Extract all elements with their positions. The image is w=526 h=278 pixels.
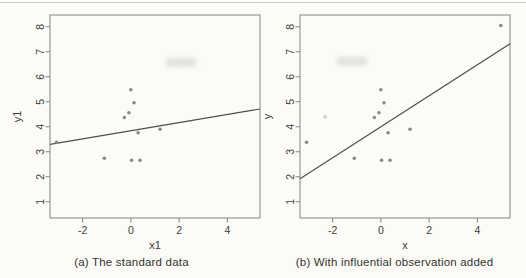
data-point xyxy=(129,88,133,92)
plot-box xyxy=(50,15,260,218)
data-point xyxy=(379,88,383,92)
data-point xyxy=(377,111,381,115)
data-point xyxy=(123,116,127,120)
y-tick-label: 7 xyxy=(34,49,46,55)
plot-box xyxy=(300,15,510,218)
data-point xyxy=(305,140,309,144)
caption-a: (a) The standard data xyxy=(0,256,263,269)
x-tick-label: 2 xyxy=(176,224,182,236)
panel-b: -202412345678xy (b) With influential obs… xyxy=(263,0,526,278)
x-axis-label: x1 xyxy=(149,239,161,251)
data-point xyxy=(130,158,134,162)
data-point xyxy=(388,158,392,162)
y-tick-label: 4 xyxy=(284,124,296,130)
y-tick-label: 8 xyxy=(34,24,46,30)
data-point xyxy=(136,131,140,135)
y-axis-label: y1 xyxy=(11,111,23,123)
regression-line xyxy=(50,109,260,144)
regression-line xyxy=(300,44,510,179)
y-tick-label: 7 xyxy=(284,49,296,55)
x-tick-label: 0 xyxy=(378,224,384,236)
data-point xyxy=(103,156,107,160)
y-axis-label: y xyxy=(263,113,273,119)
data-point xyxy=(353,156,357,160)
x-tick-label: 2 xyxy=(426,224,432,236)
x-tick-label: 4 xyxy=(474,224,480,236)
y-tick-label: 8 xyxy=(284,24,296,30)
y-tick-label: 5 xyxy=(34,99,46,105)
figure-influential-observation: -202412345678x1y1 (a) The standard data … xyxy=(0,0,526,278)
y-tick-label: 1 xyxy=(284,199,296,205)
y-tick-label: 5 xyxy=(284,99,296,105)
y-tick-label: 2 xyxy=(284,174,296,180)
x-tick-label: -2 xyxy=(328,224,337,236)
data-point xyxy=(127,111,131,115)
data-point xyxy=(373,116,377,120)
data-point xyxy=(132,101,136,105)
x-tick-label: -2 xyxy=(78,224,87,236)
y-tick-label: 6 xyxy=(284,74,296,80)
scatter-plot-a: -202412345678x1y1 xyxy=(0,0,263,256)
x-axis-label: x xyxy=(402,239,408,251)
data-point xyxy=(408,127,412,131)
data-point xyxy=(158,127,162,131)
data-point xyxy=(55,140,59,144)
data-point xyxy=(386,131,390,135)
x-tick-label: 4 xyxy=(224,224,230,236)
data-point xyxy=(382,101,386,105)
data-point xyxy=(499,24,503,28)
caption-b: (b) With influential observation added xyxy=(263,256,526,269)
scatter-plot-b: -202412345678xy xyxy=(263,0,526,256)
x-tick-label: 0 xyxy=(128,224,134,236)
data-point-faint xyxy=(323,115,327,119)
data-point xyxy=(138,158,142,162)
y-tick-label: 3 xyxy=(34,149,46,155)
data-point xyxy=(380,158,384,162)
y-tick-label: 1 xyxy=(34,199,46,205)
y-tick-label: 2 xyxy=(34,174,46,180)
y-tick-label: 6 xyxy=(34,74,46,80)
panel-row: -202412345678x1y1 (a) The standard data … xyxy=(0,0,526,278)
panel-a: -202412345678x1y1 (a) The standard data xyxy=(0,0,263,278)
y-tick-label: 3 xyxy=(284,149,296,155)
y-tick-label: 4 xyxy=(34,124,46,130)
